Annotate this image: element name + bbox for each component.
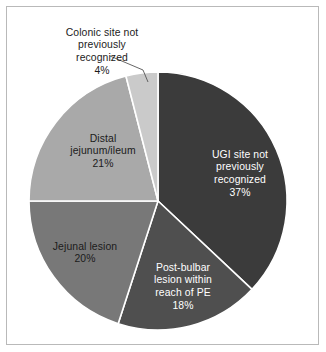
pie-svg: [0, 0, 326, 352]
pie-chart-figure: Colonic site not previously recognized 4…: [0, 0, 326, 352]
chart-plot-area: Colonic site not previously recognized 4…: [0, 0, 326, 352]
